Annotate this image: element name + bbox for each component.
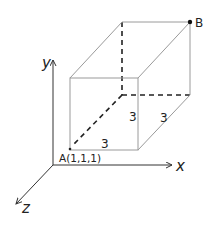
label-front-right: 3	[129, 110, 137, 124]
cube-diagram: y x z A(1,1,1) B 3 3 3	[0, 0, 213, 227]
point-a	[69, 148, 72, 151]
x-axis-label: x	[175, 157, 185, 175]
y-axis-label: y	[41, 54, 52, 72]
edge-top-left-depth	[70, 22, 122, 78]
z-axis-label: z	[21, 199, 31, 217]
point-b-label: B	[195, 16, 203, 30]
point-b	[188, 20, 192, 24]
label-side-bottom: 3	[160, 111, 168, 125]
hidden-edge-depth	[73, 95, 122, 145]
point-a-label: A(1,1,1)	[59, 152, 101, 164]
label-front-bottom: 3	[101, 137, 109, 151]
edge-top-right-depth	[138, 22, 190, 78]
